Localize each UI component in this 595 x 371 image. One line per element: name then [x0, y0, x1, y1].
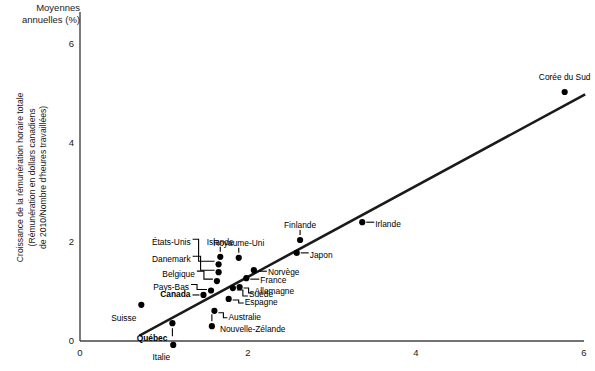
leader-line — [191, 285, 207, 290]
point-label: Pays-Bas — [0, 283, 189, 292]
data-point — [209, 323, 215, 329]
leader-line — [218, 313, 227, 318]
data-point — [226, 296, 232, 302]
data-point — [169, 320, 175, 326]
point-label: Australie — [228, 313, 261, 322]
leader-line — [193, 256, 215, 270]
point-label: Espagne — [245, 298, 278, 307]
x-tick-label: 4 — [396, 347, 436, 358]
x-tick-label: 6 — [564, 347, 595, 358]
trendline-layer — [140, 95, 584, 335]
leader-line — [233, 300, 244, 303]
y-tick-label: 4 — [50, 137, 74, 148]
data-point — [243, 275, 249, 281]
point-label: Finlande — [0, 221, 595, 230]
point-label: Nouvelle-Zélande — [220, 325, 286, 334]
point-label: Irlande — [375, 220, 401, 229]
point-label: Corée du Sud — [0, 73, 595, 82]
point-label: Japon — [310, 251, 333, 260]
unit-title: Moyennes annuelles (%) — [0, 2, 80, 26]
y-tick-label: 6 — [50, 38, 74, 49]
point-label: Suisse — [0, 314, 136, 323]
data-point — [170, 342, 176, 348]
point-label: Norvège — [268, 268, 300, 277]
point-label: Danemark — [0, 255, 191, 264]
data-point — [236, 255, 242, 261]
x-tick-label: 2 — [228, 347, 268, 358]
point-label: Royaume-Uni — [0, 239, 478, 248]
data-point — [214, 278, 220, 284]
leader-line — [237, 290, 248, 296]
data-point — [208, 287, 214, 293]
data-point — [216, 269, 222, 275]
point-label: Allemagne — [255, 287, 295, 296]
point-label: Québec — [0, 334, 167, 343]
leader-line — [197, 271, 213, 279]
data-point — [562, 89, 568, 95]
data-point — [216, 261, 222, 267]
data-point — [217, 254, 223, 260]
data-point — [138, 302, 144, 308]
data-point — [237, 284, 243, 290]
data-point — [211, 308, 217, 314]
data-point — [230, 285, 236, 291]
data-point — [251, 267, 257, 273]
point-label: Belgique — [0, 270, 195, 279]
data-point — [294, 250, 300, 256]
point-label: France — [260, 276, 286, 285]
data-points-layer — [138, 89, 568, 348]
point-label: Italie — [0, 353, 170, 362]
data-point — [200, 292, 206, 298]
